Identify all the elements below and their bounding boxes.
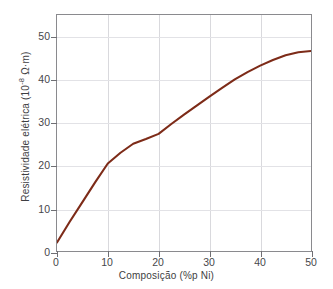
tick-y-30 (51, 123, 57, 124)
resistivity-composition-chart: 0 10 20 30 40 50 0 10 20 30 40 50 Compos… (0, 0, 333, 289)
y-axis-title: Resistividade elétrica (10-8 Ω·m) (17, 17, 30, 237)
x-axis-title: Composição (%p Ni) (0, 270, 333, 281)
xtick-label-30: 30 (189, 256, 229, 268)
xtick-label-50: 50 (291, 256, 331, 268)
tick-y-40 (51, 80, 57, 81)
resistivity-curve (57, 15, 311, 251)
xtick-label-20: 20 (138, 256, 178, 268)
plot-area (56, 14, 312, 252)
xtick-label-0: 0 (36, 256, 76, 268)
y-axis-title-tail: Ω·m) (20, 52, 31, 78)
y-axis-title-exponent: -8 (17, 78, 26, 85)
plot-inner (57, 15, 311, 251)
y-axis-title-main: Resistividade elétrica (10 (20, 85, 31, 202)
tick-y-10 (51, 210, 57, 211)
xtick-label-40: 40 (240, 256, 280, 268)
tick-y-50 (51, 37, 57, 38)
xtick-label-10: 10 (87, 256, 127, 268)
tick-y-20 (51, 166, 57, 167)
